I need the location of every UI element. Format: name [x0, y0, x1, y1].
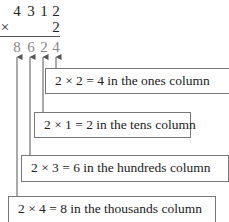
annotation-tens: 2 × 1 = 2 in the tens column: [34, 112, 191, 138]
arrows: [0, 0, 229, 222]
annotation-thousands: 2 × 4 = 8 in the thousands column: [8, 196, 216, 222]
annotation-hundreds: 2 × 3 = 6 in the hundreds column: [21, 155, 229, 182]
annotation-ones: 2 × 2 = 4 in the ones column: [45, 68, 229, 94]
